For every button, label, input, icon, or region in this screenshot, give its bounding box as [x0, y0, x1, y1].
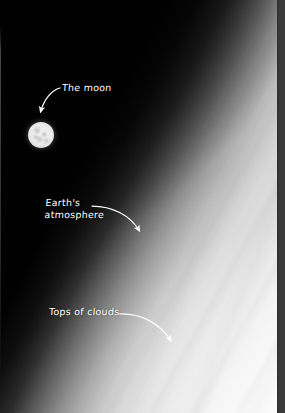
- annotation-line-2: atmosphere: [44, 209, 104, 220]
- annotation-label-atmosphere: Earth'satmosphere: [44, 197, 105, 220]
- page-gutter-strip: [277, 0, 285, 413]
- moon-icon: [28, 122, 54, 148]
- left-edge-film-line: [0, 25, 1, 380]
- annotation-label-moon: The moon: [62, 82, 112, 94]
- annotation-label-clouds: Tops of clouds: [49, 306, 120, 318]
- photograph-figure: The moon Earth'satmosphere Tops of cloud…: [0, 0, 285, 413]
- annotation-line-1: Earth's: [45, 197, 81, 208]
- space-photograph: The moon Earth'satmosphere Tops of cloud…: [0, 0, 277, 413]
- film-grain-texture: [0, 0, 277, 413]
